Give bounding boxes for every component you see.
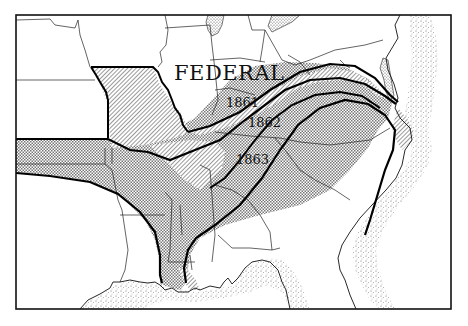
label-year-1863: 1863	[236, 152, 269, 167]
lake-michigan	[206, 15, 224, 36]
label-year-1861: 1861	[226, 95, 259, 110]
label-year-1862: 1862	[248, 115, 281, 130]
label-federal: FEDERAL	[174, 61, 285, 85]
lake-erie	[268, 15, 300, 32]
civil-war-frontier-map: FEDERAL 1861 1862 1863	[0, 0, 468, 326]
